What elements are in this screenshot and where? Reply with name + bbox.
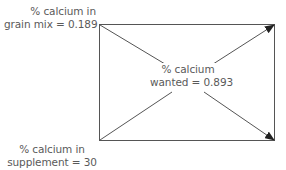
arrow-bottom-right — [204, 92, 274, 140]
target-calcium-label: % calcium wanted = 0.893 — [150, 63, 226, 89]
supplement-label-line2: supplement = 30 — [0, 156, 104, 169]
grain-mix-label-line1: % calcium in — [4, 5, 96, 18]
arrow-top-right — [210, 25, 274, 66]
supplement-label-line1: % calcium in — [0, 143, 104, 156]
grain-mix-label-line2: grain mix = 0.189 — [4, 18, 96, 31]
diagonal-bottom-left — [100, 92, 172, 140]
target-label-line1: % calcium — [150, 63, 226, 76]
supplement-calcium-label: % calcium in supplement = 30 — [0, 143, 104, 169]
target-label-line2: wanted = 0.893 — [150, 76, 226, 89]
grain-mix-calcium-label: % calcium in grain mix = 0.189 — [4, 5, 96, 31]
diagonal-top-left — [100, 25, 170, 67]
